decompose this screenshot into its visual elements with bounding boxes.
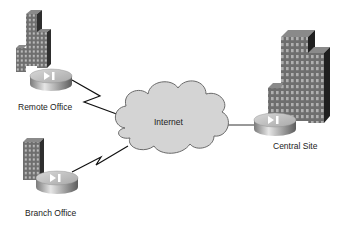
central-site-building-icon: [268, 30, 330, 123]
central-site-router-icon: [254, 113, 296, 136]
internet-label: Internet: [154, 117, 183, 127]
link-remote-to-internet: [72, 80, 122, 116]
remote-office-router-icon: [30, 69, 72, 91]
branch-office-router-icon: [36, 171, 78, 194]
network-diagram: Remote Office Branch Office Internet Cen…: [0, 0, 350, 237]
remote-office-label: Remote Office: [18, 102, 72, 112]
link-branch-to-internet: [72, 146, 128, 172]
central-site-label: Central Site: [273, 141, 317, 151]
remote-office-building-icon: [16, 10, 51, 72]
branch-office-label: Branch Office: [25, 208, 76, 218]
